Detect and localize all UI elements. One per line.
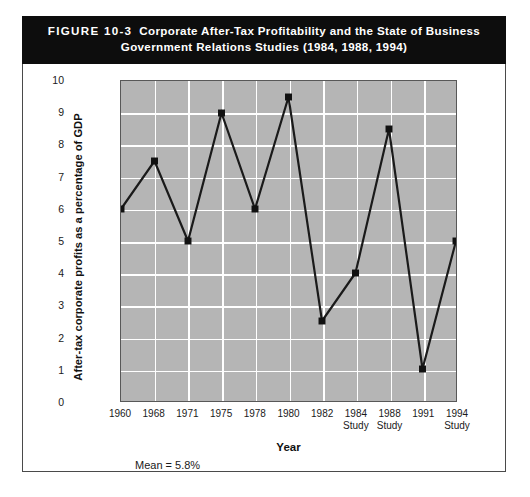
x-axis-tick-label: 1994Study (434, 408, 480, 431)
data-point-marker (352, 270, 359, 277)
y-axis-tick-label: 1 (34, 364, 64, 376)
data-point-marker (419, 366, 426, 373)
mean-annotation: Mean = 5.8% (135, 459, 200, 471)
x-axis-tick-sublabel: Study (367, 420, 413, 432)
data-point-marker (121, 206, 124, 213)
data-point-marker (151, 158, 158, 165)
y-axis-tick-label: 9 (34, 106, 64, 118)
data-series-line (121, 81, 456, 401)
figure-title-line-1: FIGURE 10-3Corporate After-Tax Profitabi… (36, 23, 492, 39)
y-axis-tick-label: 0 (34, 396, 64, 408)
series-polyline (121, 97, 456, 369)
figure-container: FIGURE 10-3Corporate After-Tax Profitabi… (22, 16, 506, 468)
data-point-marker (453, 238, 456, 245)
y-axis-tick-label: 4 (34, 267, 64, 279)
y-axis-tick-label: 3 (34, 299, 64, 311)
chart-plot-area (120, 80, 457, 402)
data-point-marker (285, 94, 292, 101)
data-point-marker (319, 318, 326, 325)
y-axis-tick-label: 6 (34, 203, 64, 215)
data-point-marker (386, 126, 393, 133)
figure-header: FIGURE 10-3Corporate After-Tax Profitabi… (22, 16, 506, 64)
y-axis-tick-label: 5 (34, 235, 64, 247)
y-axis-tick-label: 2 (34, 332, 64, 344)
figure-title-text-1: Corporate After-Tax Profitability and th… (139, 24, 480, 37)
y-axis-tick-label: 7 (34, 171, 64, 183)
figure-number-label: FIGURE 10-3 (48, 24, 133, 37)
figure-title-line-2: Government Relations Studies (1984, 1988… (36, 39, 492, 55)
x-axis-title: Year (120, 441, 457, 453)
y-axis-tick-label: 8 (34, 138, 64, 150)
figure-body: 109876543210 196019681971197519781980198… (22, 64, 506, 472)
y-axis-tick-label: 10 (34, 74, 64, 86)
y-axis-title: After-tax corporate profits as a percent… (72, 97, 84, 397)
data-point-marker (218, 110, 225, 117)
x-axis-tick-sublabel: Study (434, 420, 480, 432)
data-point-marker (185, 238, 192, 245)
data-point-marker (252, 206, 259, 213)
